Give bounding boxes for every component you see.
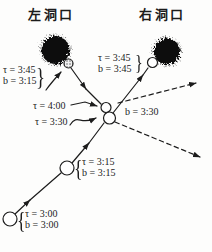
start-node-brace: { <box>17 207 26 233</box>
right-portal-label-line1: τ = 3:45 <box>98 52 131 63</box>
left-portal-label-line1: τ = 3:45 <box>3 64 36 75</box>
path-mid-to-junction-2 <box>89 123 104 143</box>
right-portal-brace: } <box>135 51 143 75</box>
tau-400-arrow-icon <box>71 102 97 106</box>
start-node-label-line2: b = 3:00 <box>25 219 58 230</box>
tunnel-portal-diagram: 左洞口 右洞口 τ = 3:45 b = 3:15 } τ = 3:45 b =… <box>0 0 212 252</box>
left-portal-label: τ = 3:45 b = 3:15 <box>3 64 36 86</box>
mid-node-label-line2: b = 3:15 <box>82 167 115 178</box>
left-portal-node <box>64 59 73 68</box>
title-left-portal: 左洞口 <box>28 9 75 20</box>
start-node-label-line1: τ = 3:00 <box>25 208 58 219</box>
mid-node-label-line1: τ = 3:15 <box>82 156 115 167</box>
junction-node-lower <box>104 112 116 124</box>
dashed-arrow-lower <box>115 122 200 157</box>
tau-330-label: τ = 3:30 <box>35 116 67 127</box>
path-start-to-mid-2 <box>30 173 61 200</box>
path-junction-to-right-portal-2 <box>143 68 148 75</box>
mid-node <box>60 161 74 175</box>
mid-node-label: τ = 3:15 b = 3:15 <box>82 156 115 178</box>
right-blob <box>154 39 180 65</box>
b-330-label: b = 3:30 <box>125 106 158 117</box>
path-left-portal-to-junction <box>71 68 86 89</box>
junction-node-upper <box>101 103 111 113</box>
right-portal-node <box>148 58 158 68</box>
left-portal-brace: } <box>36 63 45 92</box>
mid-node-brace: { <box>74 155 83 181</box>
left-portal-label-line2: b = 3:15 <box>3 75 36 86</box>
tau-400-label: τ = 4:00 <box>33 100 65 111</box>
start-node <box>3 212 17 226</box>
start-node-label: τ = 3:00 b = 3:00 <box>25 208 58 230</box>
left-label-arrow-icon <box>46 72 61 90</box>
title-right-portal: 右洞口 <box>139 9 186 20</box>
dashed-arrow-upper <box>118 83 196 103</box>
tau-330-arrow-icon <box>70 118 96 125</box>
right-portal-label-line2: b = 3:45 <box>98 63 131 74</box>
path-left-portal-to-junction-2 <box>86 89 101 104</box>
right-portal-label: τ = 3:45 b = 3:45 <box>98 52 131 74</box>
